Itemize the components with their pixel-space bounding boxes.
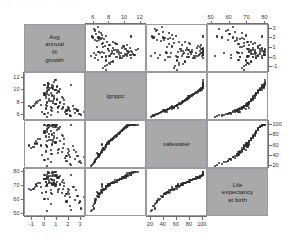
data-point — [111, 50, 113, 52]
data-point — [115, 49, 117, 51]
data-point — [227, 113, 229, 115]
data-point — [120, 52, 122, 54]
data-point — [59, 140, 61, 142]
data-point — [202, 48, 204, 50]
axis-tick-label: 20 — [147, 221, 153, 227]
scatter-panel-growth-vs-lifeexp — [207, 24, 268, 72]
data-point — [152, 36, 154, 38]
data-point — [70, 84, 72, 86]
axis-tick-label: 1 — [273, 44, 276, 50]
matrix-plot-area: Avg annual % growthlgnppcsafewaterLife e… — [24, 24, 268, 216]
data-point — [51, 133, 53, 135]
data-point — [36, 142, 38, 144]
data-point — [165, 51, 167, 53]
data-point — [97, 26, 99, 28]
axis-tick-label: 20 — [273, 162, 279, 168]
data-point — [62, 135, 64, 137]
data-point — [78, 202, 80, 204]
data-point — [111, 139, 113, 141]
data-point — [54, 174, 56, 176]
data-point — [57, 111, 59, 113]
axis-tick-label: 60 — [225, 14, 231, 20]
data-point — [168, 108, 170, 110]
data-point — [171, 46, 173, 48]
data-point — [160, 40, 162, 42]
axis-tick-label: 10 — [13, 86, 19, 92]
axis-tick — [108, 21, 109, 24]
axis-tick — [56, 217, 57, 220]
axis-tick — [269, 134, 272, 135]
data-point — [69, 196, 71, 198]
data-point — [133, 124, 135, 126]
data-point — [245, 149, 247, 151]
data-point — [121, 57, 123, 59]
axis-tick — [44, 217, 45, 220]
data-point — [70, 174, 72, 176]
data-point — [54, 171, 56, 173]
data-point — [168, 192, 170, 194]
data-point — [56, 92, 58, 94]
data-point — [62, 147, 64, 149]
data-point — [263, 54, 265, 56]
data-point — [69, 205, 71, 207]
data-point — [101, 43, 103, 45]
data-point — [245, 142, 247, 144]
data-point — [70, 124, 72, 126]
data-point — [223, 114, 225, 116]
data-point — [32, 188, 34, 190]
data-point — [183, 52, 185, 54]
data-point — [154, 207, 156, 209]
data-point — [90, 55, 92, 57]
axis-tick — [202, 217, 203, 220]
axis-tick-label: 0 — [273, 54, 276, 60]
data-point — [176, 69, 178, 71]
data-point — [232, 111, 234, 113]
data-point — [51, 84, 53, 86]
data-point — [108, 50, 110, 52]
data-point — [243, 105, 245, 107]
data-point — [56, 137, 58, 139]
data-point — [216, 35, 218, 37]
data-point — [67, 191, 69, 193]
axis-tick — [269, 57, 272, 58]
data-point — [216, 164, 218, 166]
diagonal-panel-label: Life expectancy at birth — [220, 181, 255, 204]
data-point — [263, 87, 265, 89]
data-point — [246, 41, 248, 43]
axis-tick-label: 60 — [173, 221, 179, 227]
data-point — [202, 85, 204, 87]
axis-tick-label: 80 — [261, 14, 267, 20]
axis-tick-label: 6 — [91, 14, 94, 20]
data-point — [156, 113, 158, 115]
data-point — [99, 154, 101, 156]
data-point — [237, 59, 239, 61]
data-point — [46, 165, 48, 167]
axis-tick — [21, 77, 24, 78]
data-point — [63, 185, 65, 187]
data-point — [62, 188, 64, 190]
data-point — [243, 148, 245, 150]
data-point — [102, 46, 104, 48]
axis-tick-label: 60 — [273, 142, 279, 148]
data-point — [43, 159, 45, 161]
data-point — [101, 143, 103, 145]
data-point — [239, 38, 241, 40]
data-point — [178, 41, 180, 43]
data-point — [65, 160, 67, 162]
data-point — [72, 186, 74, 188]
data-point — [243, 38, 245, 40]
axis-tick-label: 80 — [186, 221, 192, 227]
data-point — [230, 57, 232, 59]
data-point — [248, 143, 250, 145]
axis-tick — [93, 21, 94, 24]
data-point — [223, 52, 225, 54]
data-point — [118, 51, 120, 53]
data-point — [105, 144, 107, 146]
data-point — [50, 114, 52, 116]
scatter-panel-lgnppc-vs-safewater — [146, 72, 207, 120]
data-point — [169, 56, 171, 58]
data-point — [57, 152, 59, 154]
data-point — [115, 56, 117, 58]
data-point — [257, 55, 259, 57]
data-point — [182, 63, 184, 65]
